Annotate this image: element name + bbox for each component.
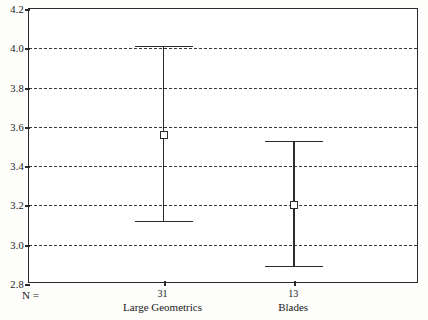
category-count: 13	[278, 287, 308, 300]
y-axis-tick	[25, 127, 30, 129]
x-axis-tick	[164, 281, 166, 286]
y-axis-tick-label: 2.8	[10, 279, 24, 290]
error-bar-lower-cap	[135, 221, 193, 222]
n-equals-label: N =	[22, 289, 39, 301]
gridline	[29, 205, 417, 206]
mean-marker	[160, 131, 168, 139]
y-axis-tick-label: 3.6	[10, 121, 24, 132]
gridline	[29, 88, 417, 89]
error-bar-chart: 4.24.03.83.63.43.23.02.8 N = 31Large Geo…	[0, 0, 428, 320]
y-axis-tick	[25, 48, 30, 50]
gridline	[29, 48, 417, 49]
y-axis-tick-label: 3.0	[10, 239, 24, 250]
x-axis-tick	[294, 281, 296, 286]
y-axis-tick	[25, 284, 30, 286]
y-axis-tick-label: 3.4	[10, 161, 24, 172]
error-bar-upper-cap	[135, 46, 193, 47]
gridline	[29, 245, 417, 246]
error-bar-upper-cap	[265, 141, 323, 142]
y-axis-tick	[25, 166, 30, 168]
y-axis-tick	[25, 88, 30, 90]
gridline	[29, 127, 417, 128]
category-label: Blades	[278, 300, 308, 314]
x-axis-category: 13Blades	[278, 287, 308, 314]
plot-area: 4.24.03.83.63.43.23.02.8	[28, 8, 418, 283]
mean-marker	[290, 201, 298, 209]
y-axis-tick-label: 4.2	[10, 4, 24, 15]
y-axis-tick	[25, 205, 30, 207]
x-axis-category: 31Large Geometrics	[123, 287, 202, 314]
error-bar-lower-cap	[265, 266, 323, 267]
category-count: 31	[123, 287, 202, 300]
y-axis-tick-label: 4.0	[10, 43, 24, 54]
gridline	[29, 166, 417, 167]
y-axis-tick-label: 3.8	[10, 82, 24, 93]
y-axis-tick	[25, 9, 30, 11]
y-axis-tick-label: 3.2	[10, 200, 24, 211]
category-label: Large Geometrics	[123, 300, 202, 314]
y-axis-tick	[25, 245, 30, 247]
